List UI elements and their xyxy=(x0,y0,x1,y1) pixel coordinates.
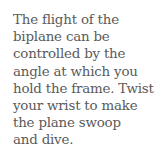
caption-paragraph: The flight of the biplane can be control… xyxy=(13,11,165,149)
caption-line: hold the frame. Twist xyxy=(13,80,165,97)
caption-line: The flight of the xyxy=(13,11,165,28)
caption-line: angle at which you xyxy=(13,63,165,80)
caption-line: biplane can be xyxy=(13,28,165,45)
caption-line: the plane swoop xyxy=(13,114,165,131)
caption-line: your wrist to make xyxy=(13,97,165,114)
caption-line: controlled by the xyxy=(13,45,165,62)
caption-line: and dive. xyxy=(13,131,165,148)
